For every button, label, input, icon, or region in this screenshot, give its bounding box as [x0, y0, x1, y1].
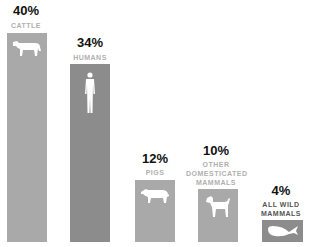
- bar-label-pigs: 12% PIGS: [135, 152, 175, 177]
- pct-humans: 34%: [68, 36, 112, 50]
- label-other-line2: DOMESTICATED: [186, 169, 246, 178]
- human-icon: [84, 72, 96, 114]
- label-pigs: PIGS: [135, 168, 175, 177]
- bar-label-wild-mammals: 4% ALL WILD MAMMALS: [258, 184, 304, 218]
- label-wild-line1: ALL WILD: [258, 200, 304, 209]
- bar-label-humans: 34% HUMANS: [68, 36, 112, 62]
- label-wild-line2: MAMMALS: [258, 209, 304, 218]
- bar-cattle: [7, 33, 47, 242]
- label-other-line3: MAMMALS: [186, 178, 246, 187]
- bar-other-domesticated: [198, 189, 238, 242]
- bar-pigs: [135, 180, 175, 242]
- pig-icon: [140, 186, 170, 204]
- pct-cattle: 40%: [6, 4, 46, 18]
- bar-label-other-domesticated: 10% OTHER DOMESTICATED MAMMALS: [186, 144, 246, 187]
- pct-wild-mammals: 4%: [258, 184, 304, 198]
- cow-icon: [11, 39, 43, 57]
- bar-label-cattle: 40% CATTLE: [6, 4, 46, 30]
- bar-humans: [70, 64, 110, 242]
- label-cattle: CATTLE: [6, 21, 46, 30]
- pct-pigs: 12%: [135, 152, 175, 166]
- label-other-line1: OTHER: [186, 160, 246, 169]
- bar-wild-mammals: [262, 220, 303, 242]
- pct-other-domesticated: 10%: [186, 144, 246, 158]
- label-humans: HUMANS: [68, 53, 112, 62]
- whale-icon: [267, 224, 299, 238]
- dog-icon: [204, 195, 232, 219]
